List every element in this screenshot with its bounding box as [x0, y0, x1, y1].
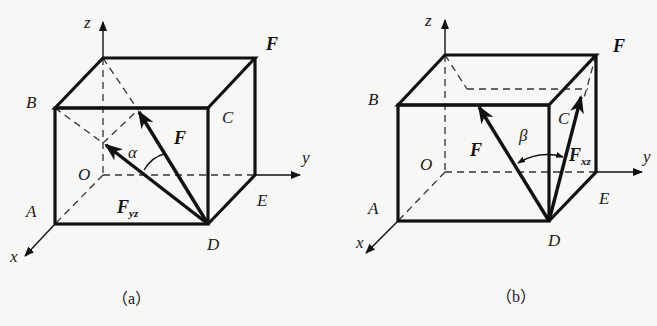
diagonal-top-proj — [103, 58, 138, 110]
diagram-canvas: z y x B A O C E D F F α Fyz （a） — [0, 0, 657, 326]
label-O: O — [420, 155, 432, 174]
label-A: A — [367, 199, 379, 218]
figure-a: z y x B A O C E D F F α Fyz （a） — [9, 13, 310, 307]
hidden-edge-x — [398, 172, 445, 221]
label-C: C — [222, 108, 234, 127]
label-z: z — [83, 13, 91, 32]
label-Fyz: Fyz — [116, 197, 139, 219]
label-B: B — [368, 90, 379, 109]
label-B: B — [26, 93, 37, 112]
box-top-face — [55, 58, 255, 108]
angle-arc-beta — [518, 155, 563, 163]
caption-a: （a） — [112, 290, 151, 307]
force-vector-F — [479, 107, 549, 221]
label-Fxz: Fxz — [568, 145, 592, 167]
label-E: E — [598, 189, 610, 208]
caption-b: （b） — [496, 288, 536, 305]
projection-link — [103, 110, 138, 143]
label-alpha: α — [128, 143, 138, 162]
label-x: x — [9, 247, 18, 266]
diagonal-top-proj — [445, 55, 467, 89]
label-z: z — [424, 11, 432, 30]
label-F-vector: F — [469, 140, 482, 160]
x-axis — [366, 221, 398, 253]
figure-b: z y x B A O C E D F F β Fxz （b） — [355, 11, 651, 305]
label-x: x — [355, 233, 364, 252]
box-top-face — [398, 55, 596, 105]
x-axis — [25, 224, 55, 256]
label-O: O — [78, 165, 90, 184]
label-A: A — [25, 202, 37, 221]
label-F-point: F — [612, 36, 625, 56]
label-D: D — [206, 235, 220, 254]
label-y: y — [300, 148, 310, 167]
label-C: C — [558, 109, 570, 128]
angle-arc-alpha — [144, 154, 164, 170]
label-D: D — [547, 231, 561, 250]
label-E: E — [256, 191, 268, 210]
label-beta: β — [518, 126, 528, 145]
label-F-vector: F — [173, 128, 186, 148]
label-F-point: F — [265, 34, 278, 54]
label-y: y — [641, 147, 651, 166]
diagonal-B-proj — [55, 108, 103, 143]
